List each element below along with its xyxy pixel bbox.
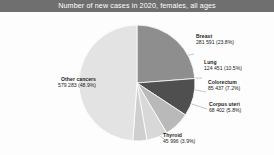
slice-label-other-cancers-value: 579 283 (48.9%)	[20, 82, 96, 88]
slice-label-thyroid-value: 45 996 (3.9%)	[163, 138, 195, 144]
slice-label-other-cancers: Other cancers 579 283 (48.9%)	[20, 76, 96, 89]
slice-label-colorectum: Colorectum 85 437 (7.2%)	[208, 79, 240, 92]
pie-slice-breast[interactable]	[137, 25, 195, 83]
chart-title-bar: Number of new cases in 2020, females, al…	[0, 0, 274, 12]
slice-label-colorectum-value: 85 437 (7.2%)	[208, 85, 240, 91]
pie-chart-figure: Number of new cases in 2020, females, al…	[0, 0, 274, 155]
slice-label-thyroid: Thyroid 45 996 (3.9%)	[163, 132, 195, 145]
slice-label-corpus-uteri: Corpus uteri 68 402 (5.8%)	[209, 101, 241, 114]
slice-label-lung-value: 124 451 (10.5%)	[204, 65, 242, 71]
slice-label-corpus-uteri-value: 68 402 (5.8%)	[209, 107, 241, 113]
slice-label-breast-value: 281 591 (23.8%)	[196, 39, 234, 45]
page-title: Number of new cases in 2020, females, al…	[0, 0, 274, 12]
pie-slices	[79, 25, 195, 141]
slice-label-breast: Breast 281 591 (23.8%)	[196, 33, 234, 46]
slice-label-lung: Lung 124 451 (10.5%)	[204, 59, 242, 72]
